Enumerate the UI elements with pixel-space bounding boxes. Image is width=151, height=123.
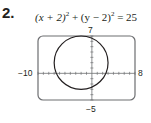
graph-window xyxy=(0,0,151,123)
window-frame xyxy=(38,36,135,100)
circle-curve xyxy=(54,36,108,89)
